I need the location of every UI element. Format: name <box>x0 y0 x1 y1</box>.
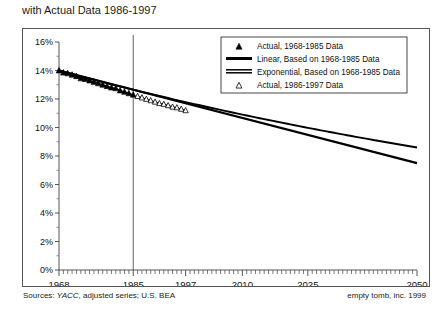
x-tick-label: 2050 <box>406 279 427 286</box>
chart-credit: empty tomb, inc. 1999 <box>347 291 426 300</box>
chart-frame: 0%2%4%6%8%10%12%14%16%196819851997201020… <box>22 28 430 287</box>
chart-plot: 0%2%4%6%8%10%12%14%16%196819851997201020… <box>23 29 429 286</box>
y-tick-label: 14% <box>35 66 53 76</box>
y-tick-label: 10% <box>35 123 53 133</box>
chart-title: with Actual Data 1986-1997 <box>22 3 157 17</box>
chart-sources: Sources: YACC, adjusted series; U.S. BEA <box>23 291 175 300</box>
legend-label: Exponential, Based on 1968-1985 Data <box>257 68 400 77</box>
sources-prefix: Sources: <box>23 291 57 300</box>
y-tick-label: 8% <box>40 151 53 161</box>
y-tick-label: 0% <box>40 265 53 275</box>
sources-italic: YACC <box>57 291 79 300</box>
y-tick-label: 6% <box>40 180 53 190</box>
legend-label: Actual, 1986-1997 Data <box>257 81 343 90</box>
legend-label: Actual, 1968-1985 Data <box>257 42 343 51</box>
x-tick-label: 1997 <box>175 279 196 286</box>
sources-rest: , adjusted series; U.S. BEA <box>79 291 176 300</box>
y-tick-label: 12% <box>35 94 53 104</box>
legend-label: Linear, Based on 1968-1985 Data <box>257 55 380 64</box>
x-tick-label: 1985 <box>123 279 144 286</box>
x-tick-label: 1968 <box>48 279 69 286</box>
y-tick-label: 16% <box>35 37 53 47</box>
y-tick-label: 4% <box>40 208 53 218</box>
x-tick-label: 2025 <box>297 279 318 286</box>
x-tick-label: 2010 <box>232 279 253 286</box>
y-tick-label: 2% <box>40 237 53 247</box>
